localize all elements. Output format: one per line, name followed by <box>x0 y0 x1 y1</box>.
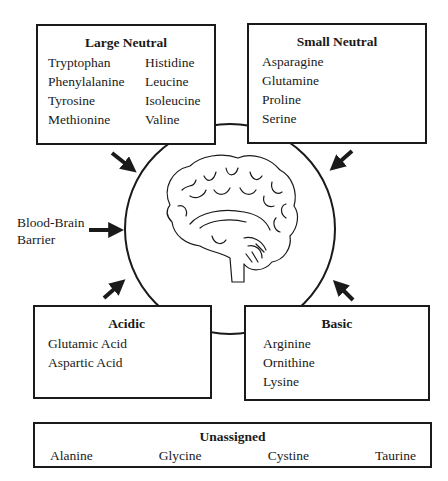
acidic-title: Acidic <box>35 315 210 332</box>
list-item: Cystine <box>268 446 309 465</box>
list-item: Aspartic Acid <box>48 353 127 372</box>
blood-brain-barrier-label: Blood-Brain Barrier <box>17 214 85 248</box>
list-item: Histidine <box>145 53 200 72</box>
unassigned-box: Unassigned Alanine Glycine Cystine Tauri… <box>33 422 432 468</box>
list-item: Tyrosine <box>48 91 124 110</box>
small-neutral-box: Small Neutral Asparagine Glutamine Proli… <box>247 23 427 144</box>
list-item: Tryptophan <box>48 53 124 72</box>
basic-box: Basic Arginine Ornithine Lysine <box>244 305 430 401</box>
large-neutral-box: Large Neutral Tryptophan Phenylalanine T… <box>36 24 216 145</box>
acidic-box: Acidic Glutamic Acid Aspartic Acid <box>33 305 212 399</box>
arrow-acidic <box>104 284 120 298</box>
list-item: Asparagine <box>262 52 323 71</box>
brain-icon <box>167 155 297 282</box>
arrow-small-neutral <box>335 151 352 166</box>
list-item: Glycine <box>159 446 202 465</box>
list-item: Lysine <box>263 372 315 391</box>
list-item: Valine <box>145 110 200 129</box>
list-item: Phenylalanine <box>48 72 124 91</box>
small-neutral-title: Small Neutral <box>249 33 425 50</box>
list-item: Glutamine <box>262 71 323 90</box>
large-neutral-title: Large Neutral <box>38 34 214 51</box>
list-item: Glutamic Acid <box>48 334 127 353</box>
list-item: Leucine <box>145 72 200 91</box>
basic-title: Basic <box>246 315 428 332</box>
unassigned-title: Unassigned <box>35 428 430 445</box>
list-item: Serine <box>262 109 323 128</box>
list-item: Methionine <box>48 110 124 129</box>
list-item: Ornithine <box>263 353 315 372</box>
list-item: Alanine <box>50 446 93 465</box>
list-item: Arginine <box>263 334 315 353</box>
arrow-basic <box>338 285 353 300</box>
list-item: Isoleucine <box>145 91 200 110</box>
arrow-large-neutral <box>112 153 131 168</box>
list-item: Proline <box>262 90 323 109</box>
list-item: Taurine <box>375 446 416 465</box>
